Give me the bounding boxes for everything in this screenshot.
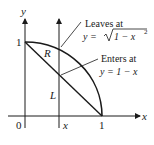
x-axis-label: x bbox=[141, 110, 147, 122]
diagram-canvas: y x 1 0 x 1 R L Leaves at y = 1 − x 2 En… bbox=[0, 0, 154, 145]
line-l-label: L bbox=[49, 89, 56, 101]
enters-equation: y = 1 − x bbox=[99, 66, 138, 77]
enters-pointer bbox=[61, 59, 98, 75]
y-tick-1: 1 bbox=[16, 36, 22, 48]
leaves-equation-exponent: 2 bbox=[144, 28, 148, 36]
leaves-title: Leaves at bbox=[85, 18, 123, 29]
origin-label: 0 bbox=[16, 119, 22, 131]
vertical-line-x-label: x bbox=[62, 119, 68, 131]
chord-line bbox=[25, 42, 102, 116]
x-tick-1: 1 bbox=[99, 119, 105, 131]
enters-title: Enters at bbox=[101, 53, 136, 64]
leaves-equation-lhs: y = bbox=[82, 31, 97, 42]
leaves-pointer bbox=[61, 22, 81, 47]
y-axis-label: y bbox=[20, 5, 26, 17]
region-r-label: R bbox=[43, 47, 51, 59]
leaves-equation-radicand: 1 − x bbox=[114, 31, 136, 42]
